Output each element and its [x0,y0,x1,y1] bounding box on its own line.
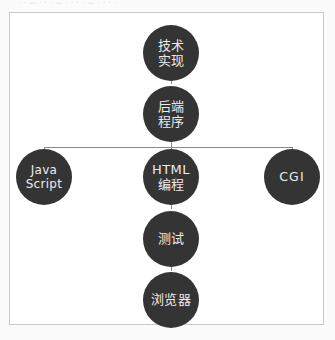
diagram-node-backend-program[interactable]: 后端 程序 [143,86,199,142]
node-label-line: 技术 [158,38,185,53]
diagram-node-tech-implementation[interactable]: 技术 实现 [143,25,199,81]
node-label-line: 编程 [158,177,185,192]
figure-frame: 技术 实现 后端 程序 Java Script HTML 编程 CGI 测试 浏… [9,12,324,325]
diagram-node-testing[interactable]: 测试 [143,211,199,267]
node-label-line: Java [31,163,58,177]
node-label-line: 后端 [158,99,185,114]
clipped-header-text: · · — · · · — · · · · — · · · · [18,0,318,6]
node-label-line: Script [26,177,63,191]
node-label-line: 测试 [158,231,185,246]
diagram-node-browser[interactable]: 浏览器 [143,272,199,328]
diagram-node-javascript[interactable]: Java Script [16,149,72,205]
node-label-line: 程序 [158,114,185,129]
diagram-node-html-programming[interactable]: HTML 编程 [143,149,199,205]
diagram-canvas: 技术 实现 后端 程序 Java Script HTML 编程 CGI 测试 浏… [10,13,323,324]
node-label-line: CGI [279,170,305,185]
node-label-line: 浏览器 [151,292,192,307]
node-label-line: HTML [152,162,190,177]
diagram-node-cgi[interactable]: CGI [264,149,320,205]
node-label-line: 实现 [158,53,185,68]
